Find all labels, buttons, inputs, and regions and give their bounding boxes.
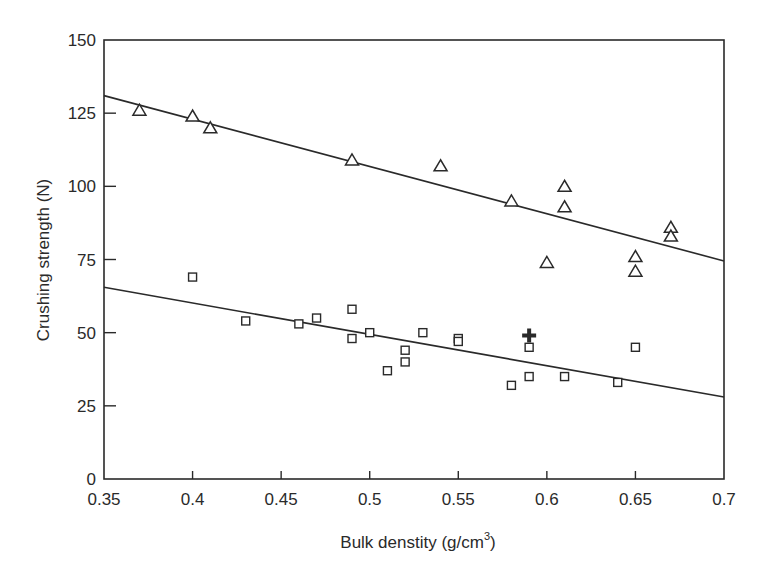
- square-marker: [383, 367, 391, 375]
- triangle-marker: [346, 154, 359, 165]
- square-marker: [401, 346, 409, 354]
- square-marker: [561, 373, 569, 381]
- square-marker: [507, 381, 515, 389]
- triangle-marker: [186, 110, 199, 121]
- y-tick-label: 100: [68, 177, 96, 196]
- triangle-marker: [558, 201, 571, 212]
- x-tick-label: 0.7: [712, 490, 736, 509]
- square-marker: [631, 343, 639, 351]
- y-tick-label: 25: [77, 397, 96, 416]
- x-tick-label: 0.35: [87, 490, 120, 509]
- square-marker: [348, 335, 356, 343]
- cross-marker: [522, 329, 536, 343]
- triangle-marker: [434, 160, 447, 171]
- scatter-chart: 0.350.40.450.50.550.60.650.7 02550751001…: [0, 0, 775, 577]
- triangle-marker: [558, 180, 571, 191]
- data-markers: [133, 104, 677, 389]
- triangle-marker: [629, 265, 642, 276]
- square-marker: [614, 378, 622, 386]
- square-marker: [295, 320, 303, 328]
- square-marker: [401, 358, 409, 366]
- square-marker: [366, 329, 374, 337]
- x-tick-label: 0.6: [535, 490, 559, 509]
- y-tick-label: 0: [87, 470, 96, 489]
- square-marker: [313, 314, 321, 322]
- x-tick-label: 0.45: [265, 490, 298, 509]
- square-marker: [242, 317, 250, 325]
- triangle-marker: [505, 195, 518, 206]
- triangle-marker: [540, 256, 553, 267]
- x-axis-title-close: ): [490, 533, 496, 552]
- x-tick-label: 0.65: [619, 490, 652, 509]
- y-tick-label: 50: [77, 324, 96, 343]
- x-tick-label: 0.55: [442, 490, 475, 509]
- y-tick-label: 75: [77, 251, 96, 270]
- square-marker: [525, 343, 533, 351]
- x-tick-label: 0.4: [181, 490, 205, 509]
- square-marker: [189, 273, 197, 281]
- triangle-marker: [629, 251, 642, 262]
- y-tick-label: 150: [68, 31, 96, 50]
- square-marker: [419, 329, 427, 337]
- square-marker: [525, 373, 533, 381]
- x-axis: 0.350.40.450.50.550.60.650.7: [87, 471, 735, 509]
- y-axis: 0255075100125150: [68, 31, 116, 489]
- x-axis-title-text: Bulk denstity (g/cm: [340, 533, 484, 552]
- y-tick-label: 125: [68, 104, 96, 123]
- x-tick-label: 0.5: [358, 490, 382, 509]
- y-axis-title: Crushing strength (N): [34, 179, 53, 342]
- squares-fit-line: [104, 287, 724, 397]
- square-marker: [454, 337, 462, 345]
- square-marker: [348, 305, 356, 313]
- x-axis-title: Bulk denstity (g/cm3): [340, 530, 495, 552]
